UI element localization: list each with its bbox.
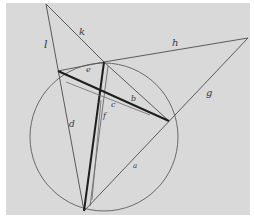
geometry-diagram: k h l g e f b c d a [0,0,254,224]
line-g [84,38,248,211]
label-d: d [69,119,75,129]
label-e: e [86,65,91,74]
label-g: g [206,87,212,98]
label-l: l [44,38,48,51]
label-h: h [172,37,178,48]
circumcircle [30,63,178,211]
arrow-c [66,82,150,115]
label-c: c [111,100,116,109]
label-k: k [79,26,85,37]
segment-e [58,62,104,71]
label-b: b [131,94,136,103]
label-a: a [133,162,137,170]
label-f: f [102,111,108,120]
segment-b-thick [58,71,169,121]
